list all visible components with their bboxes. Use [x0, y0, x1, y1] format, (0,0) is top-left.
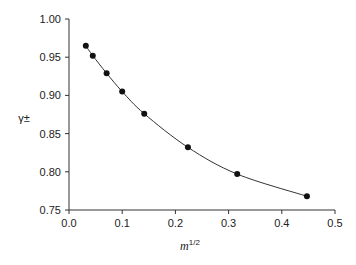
- data-point-marker: [234, 171, 240, 177]
- data-point-marker: [185, 144, 191, 150]
- x-tick-label: 0.4: [274, 217, 289, 229]
- x-axis-label-superscript: 1/2: [189, 238, 201, 247]
- x-tick-label: 0.5: [327, 217, 342, 229]
- x-tick-label: 0.0: [61, 217, 76, 229]
- data-point-marker: [104, 70, 110, 76]
- y-tick-label: 0.75: [40, 204, 61, 216]
- fit-curve: [86, 46, 307, 197]
- data-point-marker: [83, 43, 89, 49]
- x-tick-label: 0.3: [221, 217, 236, 229]
- data-point-marker: [304, 193, 310, 199]
- y-tick-label: 0.95: [40, 51, 61, 63]
- y-tick-label: 0.85: [40, 128, 61, 140]
- x-tick-label: 0.1: [115, 217, 130, 229]
- data-point-marker: [141, 111, 147, 117]
- y-axis-label: γ±: [18, 112, 30, 124]
- y-axis: 0.750.800.850.900.951.00: [40, 13, 69, 216]
- x-axis-label: m1/2: [180, 238, 200, 253]
- chart: 0.00.10.20.30.40.5 0.750.800.850.900.951…: [0, 0, 356, 265]
- x-tick-label: 0.2: [168, 217, 183, 229]
- data-point-marker: [90, 53, 96, 59]
- y-tick-label: 0.80: [40, 166, 61, 178]
- data-series: [83, 43, 310, 200]
- y-tick-label: 0.90: [40, 89, 61, 101]
- data-point-marker: [119, 89, 125, 95]
- y-tick-label: 1.00: [40, 13, 61, 25]
- x-axis-label-base: m: [180, 239, 189, 253]
- x-axis: 0.00.10.20.30.40.5: [61, 210, 342, 229]
